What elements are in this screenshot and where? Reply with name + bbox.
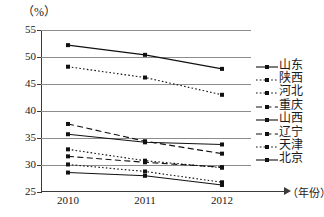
data-point-marker bbox=[66, 65, 70, 69]
legend-item-山西[interactable]: 山西 bbox=[256, 112, 324, 125]
legend-key-icon bbox=[256, 85, 278, 97]
data-point-marker bbox=[220, 93, 224, 97]
legend-item-天津[interactable]: 天津 bbox=[256, 138, 324, 151]
data-point-marker bbox=[143, 169, 147, 173]
series-山东 bbox=[66, 43, 224, 71]
data-point-marker bbox=[220, 183, 224, 187]
data-point-marker bbox=[66, 122, 70, 126]
legend-item-陕西[interactable]: 陕西 bbox=[256, 71, 324, 84]
data-point-marker bbox=[220, 67, 224, 71]
legend-key-icon bbox=[256, 139, 278, 151]
data-point-marker bbox=[143, 174, 147, 178]
series-辽宁 bbox=[66, 154, 224, 169]
data-point-marker bbox=[143, 76, 147, 80]
legend-item-重庆[interactable]: 重庆 bbox=[256, 98, 324, 111]
legend-item-北京[interactable]: 北京 bbox=[256, 152, 324, 165]
legend-key-icon bbox=[256, 152, 278, 164]
series-陕西 bbox=[66, 65, 224, 97]
legend-item-山东[interactable]: 山东 bbox=[256, 58, 324, 71]
data-point-marker bbox=[66, 132, 70, 136]
legend-key-icon bbox=[256, 59, 278, 71]
legend-item-河北[interactable]: 河北 bbox=[256, 85, 324, 98]
legend-key-icon bbox=[256, 72, 278, 84]
legend-label: 山东 bbox=[279, 59, 303, 71]
legend-label: 辽宁 bbox=[279, 126, 303, 138]
data-point-marker bbox=[143, 53, 147, 57]
legend: 山东陕西河北重庆山西辽宁天津北京 bbox=[256, 58, 324, 165]
legend-label: 陕西 bbox=[279, 72, 303, 84]
legend-label: 天津 bbox=[279, 139, 303, 151]
data-point-marker bbox=[143, 140, 147, 144]
legend-key-icon bbox=[256, 112, 278, 124]
data-point-marker bbox=[66, 154, 70, 158]
data-point-marker bbox=[66, 43, 70, 47]
series-line bbox=[68, 45, 222, 69]
data-point-marker bbox=[220, 152, 224, 156]
data-point-marker bbox=[220, 142, 224, 146]
legend-key-icon bbox=[256, 126, 278, 138]
legend-label: 山西 bbox=[279, 112, 303, 124]
legend-item-辽宁[interactable]: 辽宁 bbox=[256, 125, 324, 138]
data-point-marker bbox=[66, 162, 70, 166]
data-point-marker bbox=[143, 160, 147, 164]
legend-label: 北京 bbox=[279, 152, 303, 164]
data-point-marker bbox=[220, 165, 224, 169]
series-line bbox=[68, 124, 222, 154]
data-point-marker bbox=[66, 147, 70, 151]
data-point-marker bbox=[66, 171, 70, 175]
legend-label: 重庆 bbox=[279, 99, 303, 111]
legend-key-icon bbox=[256, 99, 278, 111]
series-line bbox=[68, 67, 222, 95]
line-chart: （%） （年份） 25303540455055 201020112012 山东陕… bbox=[0, 0, 324, 217]
series-重庆 bbox=[66, 122, 224, 156]
legend-label: 河北 bbox=[279, 85, 303, 97]
